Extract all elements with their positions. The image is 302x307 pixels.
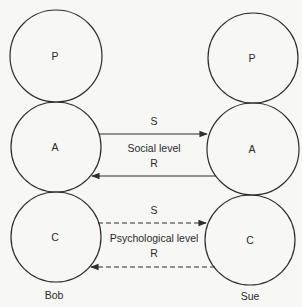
psychological-stimulus-label: S [150,204,157,216]
bob-adult-label: A [51,141,58,153]
sue-parent-label: P [248,52,255,64]
sue-name-label: Sue [241,290,260,302]
psychological-level-transaction: S Psychological level R [91,204,215,267]
sue-adult-label: A [248,143,255,155]
psychological-response-label: R [150,247,158,259]
bob-name-label: Bob [45,289,64,301]
bob-ego-states: P A C Bob [10,10,102,301]
psychological-level-label: Psychological level [110,232,199,244]
social-level-transaction: S Social level R [92,115,216,176]
bob-child-label: C [51,231,59,243]
sue-ego-states: P A C Sue [205,13,299,302]
sue-child-label: C [246,234,254,246]
social-level-label: Social level [127,142,180,154]
social-response-label: R [150,157,158,169]
bob-parent-label: P [51,50,58,62]
ta-diagram: P A C Bob P A C Sue S Social level R [0,0,302,307]
social-stimulus-label: S [150,115,157,127]
diagram-svg: P A C Bob P A C Sue S Social level R [0,0,302,307]
